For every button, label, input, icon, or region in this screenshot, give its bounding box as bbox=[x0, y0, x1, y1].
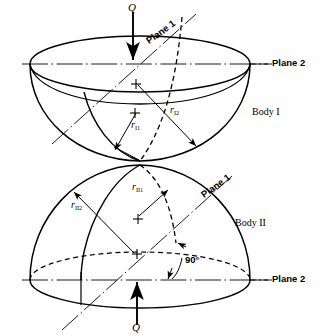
body-1-center-cross-lower bbox=[130, 108, 140, 118]
body-1-center-cross-upper bbox=[131, 79, 141, 89]
angle-arrow-lower bbox=[168, 268, 172, 279]
radius-label-r-I2-sub: I2 bbox=[174, 109, 179, 116]
body-2-label: Body II bbox=[235, 218, 266, 228]
body-1-label: Body I bbox=[252, 107, 280, 117]
radius-label-r-II1-sub: II1 bbox=[136, 186, 143, 193]
radius-arrow-r-II1 bbox=[139, 190, 168, 216]
body-2-center-cross-lower bbox=[132, 249, 142, 259]
plane2-label-bottom: Plane 2 bbox=[272, 274, 305, 284]
body-2-meridian-plane2-dashed bbox=[140, 165, 176, 243]
load-label-bottom: Q bbox=[132, 322, 140, 333]
load-label-top: Q bbox=[128, 2, 136, 13]
body-2-rim-front bbox=[30, 280, 250, 308]
plane2-label-top: Plane 2 bbox=[272, 58, 305, 68]
radius-arc-r-I1 bbox=[114, 147, 139, 160]
radius-label-r-I2: rI2 bbox=[170, 105, 179, 116]
angle-arrow-upper bbox=[178, 243, 186, 247]
body-2-group bbox=[22, 165, 272, 330]
radius-arrow-r-I2 bbox=[138, 85, 196, 146]
radius-label-r-I1: rI1 bbox=[131, 120, 140, 131]
contact-mechanics-diagram bbox=[0, 0, 320, 336]
body-2-rim-back-dashed bbox=[30, 252, 250, 280]
body-2-center-cross-upper bbox=[133, 214, 143, 224]
radius-label-r-II2: rII2 bbox=[71, 200, 82, 211]
radius-label-r-II2-sub: II2 bbox=[75, 204, 82, 211]
radius-label-r-I1-sub: I1 bbox=[135, 124, 140, 131]
body-1-plane1-axis bbox=[52, 14, 196, 144]
angle-arc-90 bbox=[172, 258, 182, 279]
body-2-plane1-axis bbox=[62, 176, 232, 330]
radius-label-r-II1: rII1 bbox=[132, 182, 143, 193]
angle-label-90: 90° bbox=[185, 255, 199, 265]
